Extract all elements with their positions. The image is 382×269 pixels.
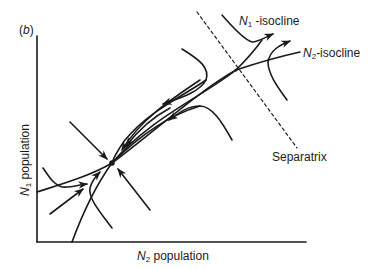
- trajectory-mid-outer: [112, 106, 200, 163]
- n2-isocline-text: -isocline: [316, 46, 360, 60]
- n2-isocline-curve: [37, 52, 300, 192]
- y-axis-label: N1 population: [19, 124, 33, 196]
- trajectory-top-right: [268, 41, 290, 100]
- x-axis-symbol: N: [137, 249, 146, 263]
- n1-isocline-text: -isocline: [252, 14, 299, 28]
- trajectory-inner-arrow: [126, 108, 170, 146]
- n1-symbol: N: [239, 14, 248, 28]
- separatrix-label: Separatrix: [272, 151, 327, 163]
- separatrix-line: [197, 12, 297, 148]
- phase-plane-diagram: [0, 0, 382, 269]
- x-axis-label: N2 population: [137, 250, 209, 264]
- x-axis-text: population: [150, 249, 209, 263]
- stable-equilibrium-point: [109, 160, 115, 166]
- trajectory-lower-left-arrow: [50, 189, 83, 214]
- trajectory-lower-right-arrow: [118, 169, 150, 210]
- panel-label: (b): [19, 24, 34, 36]
- n2-isocline-label: N2-isocline: [303, 47, 360, 61]
- n1-isocline-label: N1 -isocline: [239, 15, 299, 29]
- n2-symbol: N: [303, 46, 312, 60]
- panel-label-close: ): [30, 23, 34, 37]
- y-axis-text: population: [18, 124, 32, 183]
- trajectory-upper-band: [163, 49, 207, 104]
- panel-label-letter: b: [23, 23, 30, 37]
- saddle-point: [235, 69, 238, 72]
- trajectory-upper-left-arrow: [70, 122, 107, 159]
- y-axis-subscript: 1: [24, 183, 33, 187]
- y-axis-symbol: N: [18, 187, 32, 196]
